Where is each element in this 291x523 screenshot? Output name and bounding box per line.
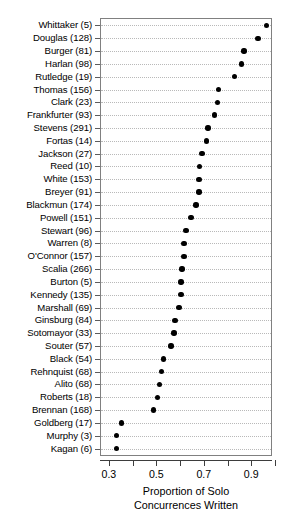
category-label: Rutledge (19) <box>35 72 92 82</box>
data-point <box>151 407 156 412</box>
category-label: Fortas (14) <box>46 136 92 146</box>
data-point <box>199 151 204 156</box>
category-axis-labels: Whittaker (5)Douglas (128)Burger (81)Har… <box>0 18 92 456</box>
gridline <box>101 166 271 167</box>
plot-area <box>100 18 272 456</box>
category-label: Blackmun (174) <box>26 200 92 210</box>
x-axis-tick <box>133 460 134 466</box>
gridline <box>101 359 271 360</box>
gridline <box>101 320 271 321</box>
category-label: Burger (81) <box>45 46 92 56</box>
gridline <box>101 436 271 437</box>
gridline <box>101 282 271 283</box>
data-point <box>161 356 166 361</box>
data-point <box>155 395 160 400</box>
gridline <box>101 372 271 373</box>
data-point <box>232 74 237 79</box>
data-point <box>204 138 209 143</box>
category-label: Clark (23) <box>51 97 92 107</box>
category-label: Murphy (3) <box>47 431 92 441</box>
category-label: Roberts (18) <box>40 392 92 402</box>
x-axis-tick <box>251 460 252 466</box>
data-point <box>114 433 119 438</box>
data-point <box>188 215 193 220</box>
gridline <box>101 410 271 411</box>
category-label: Burton (5) <box>50 277 92 287</box>
gridline <box>101 154 271 155</box>
data-point <box>159 369 164 374</box>
data-point <box>178 292 183 297</box>
data-point <box>197 164 202 169</box>
category-label: Douglas (128) <box>33 33 92 43</box>
category-label: Goldberg (17) <box>34 418 92 428</box>
category-label: Brennan (168) <box>32 405 92 415</box>
x-axis: 0.30.50.70.9 <box>100 456 272 486</box>
gridline <box>101 90 271 91</box>
gridline <box>101 333 271 334</box>
dot-chart: Whittaker (5)Douglas (128)Burger (81)Har… <box>0 0 291 523</box>
data-point <box>114 446 119 451</box>
gridline <box>101 423 271 424</box>
data-point <box>264 23 269 28</box>
x-axis-line <box>100 460 272 461</box>
gridline <box>101 179 271 180</box>
data-point <box>172 318 177 323</box>
category-label: Stevens (291) <box>34 123 92 133</box>
data-point <box>239 61 244 66</box>
x-axis-title-line-2: Concurrences Written <box>100 499 272 513</box>
gridline <box>101 205 271 206</box>
gridline <box>101 295 271 296</box>
x-axis-tick-label: 0.3 <box>102 468 117 480</box>
category-label: Reed (10) <box>50 161 92 171</box>
category-label: Powell (151) <box>40 213 92 223</box>
data-point <box>196 189 201 194</box>
x-axis-tick <box>109 460 110 466</box>
data-point <box>119 420 124 425</box>
x-axis-tick-label: 0.5 <box>149 468 164 480</box>
gridline <box>101 384 271 385</box>
category-label: O'Connor (157) <box>28 251 92 261</box>
data-point <box>193 202 198 207</box>
category-label: Thomas (156) <box>33 85 92 95</box>
category-label: Breyer (91) <box>45 187 92 197</box>
category-label: Whittaker (5) <box>38 20 92 30</box>
x-axis-tick <box>275 460 276 466</box>
gridline <box>101 346 271 347</box>
category-label: White (153) <box>44 174 93 184</box>
category-label: Rehnquist (68) <box>30 367 92 377</box>
gridline <box>101 218 271 219</box>
category-label: Frankfurter (93) <box>27 110 92 120</box>
gridline <box>101 308 271 309</box>
category-label: Kagan (6) <box>51 444 92 454</box>
category-label: Stewart (96) <box>41 226 92 236</box>
category-label: Sotomayor (33) <box>27 328 92 338</box>
category-label: Harlan (98) <box>45 59 92 69</box>
category-axis-ticks <box>93 18 100 456</box>
data-point <box>183 228 188 233</box>
data-point <box>179 266 184 271</box>
data-point <box>255 36 260 41</box>
x-axis-tick <box>180 460 181 466</box>
data-point <box>241 48 246 53</box>
category-label: Black (54) <box>50 354 92 364</box>
data-point <box>157 382 162 387</box>
category-label: Alito (68) <box>55 379 92 389</box>
x-axis-tick <box>204 460 205 466</box>
data-point <box>216 87 221 92</box>
data-point <box>196 177 201 182</box>
data-point <box>215 100 220 105</box>
data-point <box>212 112 217 117</box>
gridline <box>101 141 271 142</box>
data-point <box>171 330 176 335</box>
gridline <box>101 192 271 193</box>
gridline <box>101 102 271 103</box>
x-axis-title-line-1: Proportion of Solo <box>100 485 272 499</box>
gridline <box>101 64 271 65</box>
x-axis-tick <box>228 460 229 466</box>
gridline <box>101 77 271 78</box>
data-point <box>176 305 181 310</box>
data-point <box>205 125 210 130</box>
gridline <box>101 397 271 398</box>
category-label: Souter (57) <box>45 341 92 351</box>
category-label: Scalia (266) <box>42 264 92 274</box>
